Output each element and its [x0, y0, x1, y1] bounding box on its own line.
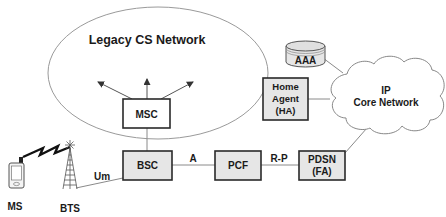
bsc-label: BSC — [137, 160, 158, 171]
wireless-link-icon — [23, 146, 70, 157]
ms-label: MS — [8, 201, 23, 212]
ip-core-network-label-line2: Core Network — [353, 97, 418, 108]
home-agent-label-line2: Agent — [272, 93, 300, 104]
ip-core-network-label-line1: IP — [381, 85, 391, 96]
aaa-label: AAA — [295, 55, 317, 66]
msc-arrow-right — [161, 82, 193, 99]
bts-tower-icon — [63, 140, 77, 189]
home-agent-label-line3: (HA) — [275, 105, 295, 116]
legacy-cs-network-label: Legacy CS Network — [89, 33, 206, 47]
interface-rp-label: R-P — [270, 153, 288, 164]
interface-um-label: Um — [94, 171, 110, 182]
pcf-label: PCF — [228, 160, 248, 171]
interface-a-label: A — [189, 153, 196, 164]
home-agent-label-line1: Home — [272, 81, 298, 92]
network-diagram: Legacy CS Network Um A R-P MSC BSC PCF P… — [0, 0, 446, 217]
pdsn-label-line1: PDSN — [308, 154, 336, 165]
msc-label: MSC — [135, 109, 157, 120]
link-aaa-cloud — [323, 58, 343, 73]
mobile-station-icon — [9, 157, 24, 188]
pdsn-label-line2: (FA) — [312, 166, 331, 177]
bts-label: BTS — [60, 203, 80, 214]
link-pdsn-cloud — [345, 128, 367, 153]
msc-arrow-left — [98, 82, 132, 99]
